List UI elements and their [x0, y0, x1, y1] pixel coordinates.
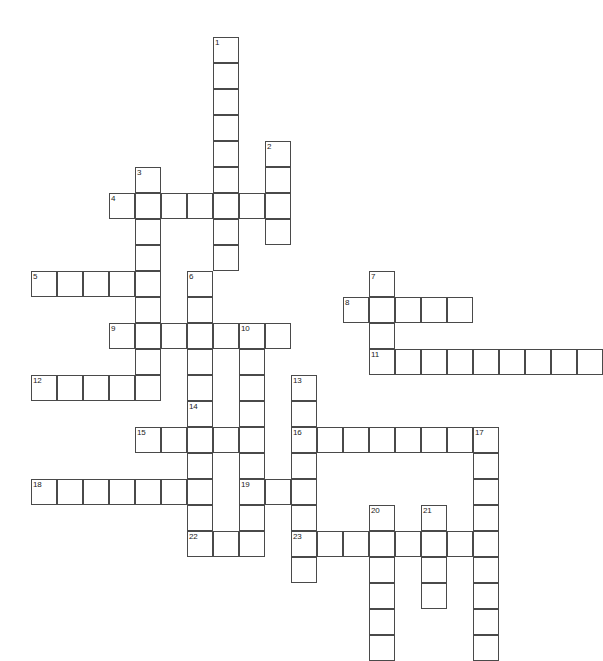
- crossword-cell[interactable]: [161, 427, 187, 453]
- crossword-cell[interactable]: [473, 635, 499, 661]
- crossword-cell[interactable]: [369, 505, 395, 531]
- crossword-cell[interactable]: [135, 323, 161, 349]
- crossword-cell[interactable]: [213, 167, 239, 193]
- crossword-cell[interactable]: [291, 505, 317, 531]
- crossword-cell[interactable]: [239, 531, 265, 557]
- crossword-cell[interactable]: [369, 427, 395, 453]
- crossword-cell[interactable]: [447, 427, 473, 453]
- crossword-cell[interactable]: [291, 453, 317, 479]
- crossword-cell[interactable]: [57, 375, 83, 401]
- crossword-cell[interactable]: [447, 297, 473, 323]
- crossword-cell[interactable]: [369, 349, 395, 375]
- crossword-cell[interactable]: [239, 349, 265, 375]
- crossword-cell[interactable]: [213, 37, 239, 63]
- crossword-cell[interactable]: [447, 531, 473, 557]
- crossword-cell[interactable]: [187, 323, 213, 349]
- crossword-cell[interactable]: [187, 479, 213, 505]
- crossword-cell[interactable]: [187, 297, 213, 323]
- crossword-cell[interactable]: [421, 505, 447, 531]
- crossword-cell[interactable]: [473, 531, 499, 557]
- crossword-cell[interactable]: [369, 271, 395, 297]
- crossword-cell[interactable]: [239, 323, 265, 349]
- crossword-cell[interactable]: [135, 375, 161, 401]
- crossword-cell[interactable]: [31, 479, 57, 505]
- crossword-cell[interactable]: [577, 349, 603, 375]
- crossword-cell[interactable]: [187, 349, 213, 375]
- crossword-cell[interactable]: [343, 297, 369, 323]
- crossword-cell[interactable]: [135, 167, 161, 193]
- crossword-cell[interactable]: [343, 427, 369, 453]
- crossword-cell[interactable]: [213, 427, 239, 453]
- crossword-cell[interactable]: [369, 635, 395, 661]
- crossword-cell[interactable]: [291, 531, 317, 557]
- crossword-cell[interactable]: [473, 505, 499, 531]
- crossword-cell[interactable]: [161, 193, 187, 219]
- crossword-cell[interactable]: [57, 479, 83, 505]
- crossword-cell[interactable]: [109, 271, 135, 297]
- crossword-cell[interactable]: [213, 193, 239, 219]
- crossword-cell[interactable]: [187, 401, 213, 427]
- crossword-cell[interactable]: [213, 245, 239, 271]
- crossword-cell[interactable]: [239, 193, 265, 219]
- crossword-cell[interactable]: [317, 531, 343, 557]
- crossword-cell[interactable]: [317, 427, 343, 453]
- crossword-cell[interactable]: [291, 401, 317, 427]
- crossword-cell[interactable]: [213, 89, 239, 115]
- crossword-cell[interactable]: [135, 271, 161, 297]
- crossword-cell[interactable]: [473, 427, 499, 453]
- crossword-cell[interactable]: [421, 583, 447, 609]
- crossword-cell[interactable]: [421, 557, 447, 583]
- crossword-cell[interactable]: [369, 557, 395, 583]
- crossword-cell[interactable]: [265, 219, 291, 245]
- crossword-cell[interactable]: [265, 193, 291, 219]
- crossword-cell[interactable]: [421, 297, 447, 323]
- crossword-cell[interactable]: [187, 453, 213, 479]
- crossword-cell[interactable]: [369, 583, 395, 609]
- crossword-cell[interactable]: [135, 297, 161, 323]
- crossword-cell[interactable]: [213, 115, 239, 141]
- crossword-cell[interactable]: [213, 63, 239, 89]
- crossword-cell[interactable]: [135, 245, 161, 271]
- crossword-cell[interactable]: [421, 531, 447, 557]
- crossword-cell[interactable]: [369, 323, 395, 349]
- crossword-cell[interactable]: [187, 193, 213, 219]
- crossword-cell[interactable]: [83, 375, 109, 401]
- crossword-cell[interactable]: [421, 427, 447, 453]
- crossword-cell[interactable]: [213, 141, 239, 167]
- crossword-cell[interactable]: [265, 141, 291, 167]
- crossword-cell[interactable]: [135, 219, 161, 245]
- crossword-cell[interactable]: [135, 479, 161, 505]
- crossword-cell[interactable]: [369, 297, 395, 323]
- crossword-cell[interactable]: [369, 609, 395, 635]
- crossword-cell[interactable]: [187, 505, 213, 531]
- crossword-cell[interactable]: [551, 349, 577, 375]
- crossword-cell[interactable]: [291, 375, 317, 401]
- crossword-cell[interactable]: [239, 401, 265, 427]
- crossword-cell[interactable]: [135, 427, 161, 453]
- crossword-cell[interactable]: [265, 479, 291, 505]
- crossword-cell[interactable]: [395, 297, 421, 323]
- crossword-cell[interactable]: [473, 349, 499, 375]
- crossword-cell[interactable]: [499, 349, 525, 375]
- crossword-cell[interactable]: [161, 479, 187, 505]
- crossword-cell[interactable]: [109, 193, 135, 219]
- crossword-cell[interactable]: [135, 193, 161, 219]
- crossword-cell[interactable]: [109, 375, 135, 401]
- crossword-cell[interactable]: [395, 349, 421, 375]
- crossword-cell[interactable]: [161, 323, 187, 349]
- crossword-cell[interactable]: [239, 427, 265, 453]
- crossword-cell[interactable]: [447, 349, 473, 375]
- crossword-cell[interactable]: [187, 531, 213, 557]
- crossword-cell[interactable]: [473, 583, 499, 609]
- crossword-cell[interactable]: [239, 505, 265, 531]
- crossword-cell[interactable]: [187, 375, 213, 401]
- crossword-cell[interactable]: [369, 531, 395, 557]
- crossword-cell[interactable]: [525, 349, 551, 375]
- crossword-cell[interactable]: [265, 167, 291, 193]
- crossword-cell[interactable]: [239, 453, 265, 479]
- crossword-cell[interactable]: [473, 557, 499, 583]
- crossword-cell[interactable]: [473, 453, 499, 479]
- crossword-cell[interactable]: [291, 479, 317, 505]
- crossword-cell[interactable]: [213, 219, 239, 245]
- crossword-cell[interactable]: [213, 531, 239, 557]
